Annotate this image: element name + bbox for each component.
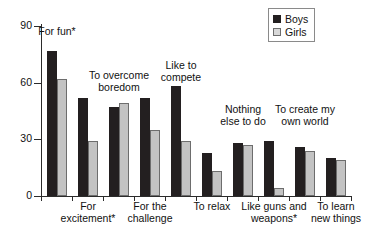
bar-chart: 9060300 For fun*To overcome boredomLike … (0, 0, 368, 241)
group-annotation-label: For fun* (24, 26, 90, 38)
bar-girls-2 (119, 103, 129, 196)
bar-boys-5 (202, 153, 212, 196)
bar-girls-1 (88, 141, 98, 196)
bar-girls-7 (274, 188, 284, 196)
legend-item-girls: Girls (273, 25, 308, 38)
bar-boys-2 (109, 107, 119, 196)
legend: Boys Girls (268, 8, 315, 42)
bar-girls-5 (212, 171, 222, 196)
y-tick-mark (34, 139, 41, 140)
bar-boys-7 (264, 141, 274, 196)
group-annotation-label: Like to compete (149, 60, 213, 83)
boys-swatch-icon (273, 15, 281, 23)
x-category-label: For the challenge (115, 201, 185, 224)
y-tick-mark (34, 196, 41, 197)
y-tick-mark (34, 83, 41, 84)
bar-girls-9 (336, 160, 346, 196)
bar-girls-3 (150, 130, 160, 196)
x-tick-mark (41, 196, 42, 201)
bar-boys-3 (140, 98, 150, 196)
bar-girls-4 (181, 141, 191, 196)
y-tick-label: 0 (14, 190, 32, 200)
bar-boys-4 (171, 86, 181, 196)
bar-girls-0 (57, 79, 67, 196)
group-annotation-label: To create my own world (262, 104, 348, 127)
bar-boys-8 (295, 147, 305, 196)
bar-boys-1 (78, 98, 88, 196)
bar-boys-0 (47, 51, 57, 196)
y-tick-label: 60 (14, 77, 32, 87)
x-category-label: To learn new things (301, 201, 368, 224)
bar-girls-6 (243, 145, 253, 196)
legend-label-boys: Boys (285, 13, 308, 25)
bar-boys-6 (233, 143, 243, 196)
legend-label-girls: Girls (285, 26, 307, 38)
x-category-label: For excitement* (51, 201, 125, 224)
girls-swatch-icon (273, 28, 281, 36)
bar-boys-9 (326, 158, 336, 196)
y-axis-line (41, 24, 42, 197)
legend-item-boys: Boys (273, 12, 308, 25)
bar-girls-8 (305, 151, 315, 196)
y-tick-label: 30 (14, 133, 32, 143)
